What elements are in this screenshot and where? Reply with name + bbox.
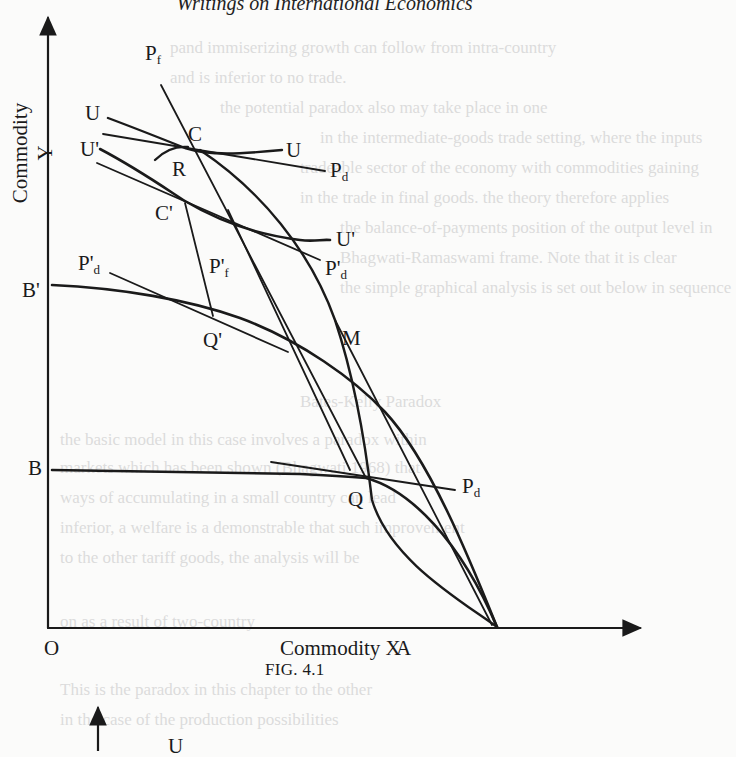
point-q-prime-label: Q' [203,330,222,351]
point-b-label: B [28,458,42,479]
price-pf-prime-label: P'f [209,256,229,279]
price-line-pf-parallel [228,210,350,470]
ppc-b-q-a [52,470,497,627]
figure-caption: FIG. 4.1 [265,660,325,680]
price-pd-bottom-label: Pd [462,476,480,499]
ppc-bprime-qprime-a [52,285,497,627]
price-line-pd-bottom [271,462,455,490]
point-q-label: Q [348,489,363,510]
indifference-curve-u-prime [100,149,330,241]
curve-u-right-label: U [286,140,301,161]
second-figure-u-label: U [168,736,183,757]
point-b-prime-label: B' [22,280,40,301]
point-c-prime-label: C' [155,203,173,224]
curve-u-prime-right-label: U' [336,229,355,250]
price-line-pd-prime-left [110,273,288,352]
price-pd-prime-right-label: P'd [325,258,347,281]
point-a-label: A [396,638,411,659]
origin-label: O [44,638,59,659]
point-m-label: M [342,328,361,349]
x-axis-label: Commodity X [280,636,401,661]
curve-u-prime-left-label: U' [80,139,99,160]
line-to-a [335,320,492,625]
price-pf-label: Pf [145,43,161,66]
y-axis-label: Commodity Y [8,98,58,208]
price-pd-prime-left-label: P'd [78,253,100,276]
curve-u-left-label: U [85,103,100,124]
point-c-label: C [188,124,202,145]
curve-c-m-a [200,150,497,627]
price-pd-top-label: Pd [330,160,348,183]
point-r-label: R [172,159,186,180]
